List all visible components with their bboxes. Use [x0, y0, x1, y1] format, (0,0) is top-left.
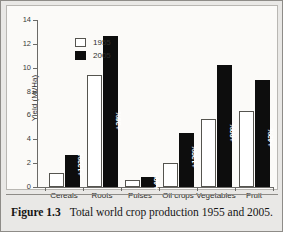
bar-percent-annotation: +36%	[115, 112, 123, 131]
y-axis-tick-label: 12	[23, 40, 31, 48]
plot-area: 02468101214 +123%+36%+40%+130%+80%+42% C…	[37, 20, 273, 188]
x-axis-tick	[121, 187, 122, 191]
bar-percent-annotation: +123%	[77, 153, 85, 176]
bar-2005: +130%	[179, 133, 194, 187]
y-axis-tick-label: 8	[27, 88, 31, 96]
y-axis-tick	[33, 139, 37, 140]
legend-item-2005: 2005	[75, 51, 111, 60]
chart-legend: 1955 2005	[75, 38, 111, 60]
legend-item-1955: 1955	[75, 38, 111, 47]
y-axis-line	[37, 20, 38, 188]
caption-label: Figure 1.3	[11, 206, 61, 218]
figure-caption: Figure 1.3 Total world crop production 1…	[6, 197, 278, 227]
bar-percent-annotation: +130%	[191, 145, 199, 168]
caption-text: Total world crop production 1955 and 200…	[70, 206, 273, 218]
legend-swatch-1955-icon	[75, 38, 86, 47]
bar-2005: +42%	[255, 80, 270, 187]
bar-2005: +40%	[141, 177, 156, 187]
x-axis-tick	[273, 187, 274, 191]
legend-label-2005: 2005	[93, 52, 111, 60]
bar-percent-annotation: +80%	[229, 123, 237, 142]
y-axis-tick-label: 14	[23, 16, 31, 24]
y-axis-tick	[33, 92, 37, 93]
bar-2005: +123%	[65, 155, 80, 187]
x-axis-tick	[45, 187, 46, 191]
bar-1955	[125, 180, 140, 187]
legend-swatch-2005-icon	[75, 51, 86, 60]
bar-percent-annotation: +40%	[153, 171, 161, 190]
y-axis-tick	[33, 115, 37, 116]
y-axis-tick-label: 4	[27, 136, 31, 144]
bar-percent-annotation: +42%	[267, 129, 275, 148]
caption-divider	[6, 194, 278, 195]
y-axis-tick	[33, 20, 37, 21]
bar-1955	[239, 111, 254, 187]
y-axis-tick	[33, 187, 37, 188]
figure-frame: Yield (Mt/Ha) 02468101214 +123%+36%+40%+…	[0, 0, 283, 232]
bar-1955	[163, 163, 178, 187]
y-axis-tick-label: 6	[27, 112, 31, 120]
bar-2005: +80%	[217, 65, 232, 187]
bar-1955	[87, 75, 102, 187]
y-axis-tick-label: 10	[23, 64, 31, 72]
y-axis-tick	[33, 44, 37, 45]
y-axis-tick-label: 2	[27, 159, 31, 167]
bar-1955	[49, 173, 64, 187]
y-axis-tick	[33, 163, 37, 164]
y-axis-tick	[33, 68, 37, 69]
chart-panel: Yield (Mt/Ha) 02468101214 +123%+36%+40%+…	[6, 5, 278, 190]
bar-1955	[201, 119, 216, 187]
legend-label-1955: 1955	[93, 39, 111, 47]
y-axis-tick-label: 0	[27, 183, 31, 191]
x-axis-tick	[83, 187, 84, 191]
